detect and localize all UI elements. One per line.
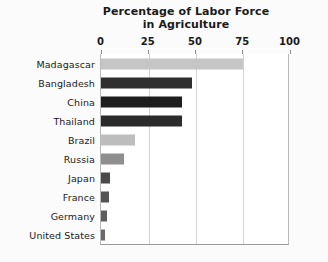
bar-chart: Percentage of Labor Force in Agriculture… bbox=[0, 0, 328, 262]
chart-title-line-1: Percentage of Labor Force bbox=[103, 5, 269, 18]
bar-category-label: United States bbox=[29, 230, 95, 241]
bar-category-label: Germany bbox=[51, 211, 95, 222]
bar bbox=[101, 230, 105, 241]
bar-row: Japan bbox=[0, 169, 328, 188]
bar-row: China bbox=[0, 92, 328, 111]
bar bbox=[101, 211, 107, 222]
bar-category-label: Japan bbox=[68, 173, 95, 184]
x-axis: 0255075100 bbox=[0, 36, 328, 54]
x-axis-tick-label: 100 bbox=[279, 36, 300, 47]
bar bbox=[101, 96, 182, 107]
chart-title: Percentage of Labor Force in Agriculture bbox=[76, 5, 296, 31]
bar-category-label: Madagascar bbox=[36, 58, 95, 69]
bar-row: Madagascar bbox=[0, 54, 328, 73]
bar bbox=[101, 115, 182, 126]
bar bbox=[101, 192, 109, 203]
bar bbox=[101, 173, 110, 184]
x-axis-tick-label: 50 bbox=[188, 36, 202, 47]
bar-row: Germany bbox=[0, 207, 328, 226]
bar bbox=[101, 58, 243, 69]
bar bbox=[101, 154, 124, 165]
x-axis-tick-label: 25 bbox=[141, 36, 155, 47]
bar-category-label: Brazil bbox=[68, 134, 95, 145]
bar-row: Thailand bbox=[0, 111, 328, 130]
bar bbox=[101, 77, 192, 88]
bar-row: Brazil bbox=[0, 130, 328, 149]
chart-title-line-2: in Agriculture bbox=[76, 18, 296, 31]
bar-category-label: France bbox=[63, 192, 95, 203]
bar-row: Russia bbox=[0, 150, 328, 169]
bar-row: France bbox=[0, 188, 328, 207]
x-axis-tick-label: 0 bbox=[97, 36, 104, 47]
bar-category-label: Russia bbox=[64, 154, 95, 165]
bar-category-label: Thailand bbox=[53, 115, 95, 126]
bar-rows: MadagascarBangladeshChinaThailandBrazilR… bbox=[0, 54, 328, 245]
bar-row: Bangladesh bbox=[0, 73, 328, 92]
bar-row: United States bbox=[0, 226, 328, 245]
bar bbox=[101, 134, 135, 145]
x-axis-tick-label: 75 bbox=[235, 36, 249, 47]
bar-category-label: Bangladesh bbox=[38, 77, 95, 88]
bar-category-label: China bbox=[67, 96, 95, 107]
